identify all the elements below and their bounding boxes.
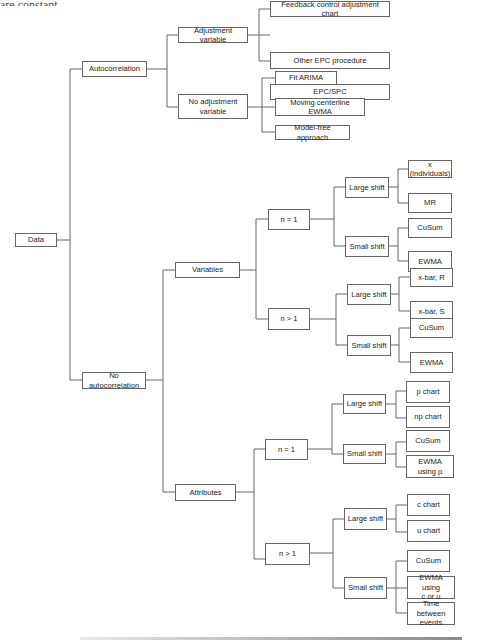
node-no-autocorrelation: No autocorrelation (82, 372, 146, 389)
node-fit-arima: Fit ARIMA (275, 71, 337, 85)
node-attributes-ngt1-cusum: CuSum (407, 550, 450, 572)
node-time-between-events: Time between events (407, 602, 455, 625)
node-autocorrelation: Autocorrelation (82, 61, 147, 77)
node-model-free-approach: Model-free approach (275, 125, 350, 140)
node-xbar-r: x-bar, R (410, 268, 453, 287)
node-x-individuals: x (individuals) (408, 160, 452, 178)
node-other-epc-procedure: Other EPC procedure (270, 52, 390, 69)
node-attributes: Attributes (175, 484, 236, 501)
node-no-adjustment-variable: No adjustment variable (178, 94, 248, 119)
node-variables-ngt1-cusum: CuSum (410, 318, 453, 338)
node-moving-centerline-ewma: Moving centerline EWMA (275, 98, 365, 116)
node-mr: MR (408, 193, 452, 213)
node-adjustment-variable: Adjustment variable (178, 27, 248, 43)
node-np-chart: np chart (406, 406, 450, 428)
node-variables: Variables (175, 262, 240, 278)
node-feedback-control-chart: Feedback control adjustment chart (270, 1, 390, 17)
node-attributes-n1-small-shift: Small shift (343, 444, 386, 464)
node-variables-n-gt-1: n > 1 (268, 308, 310, 330)
node-attributes-n-gt-1: n > 1 (265, 543, 310, 565)
node-attributes-n-eq-1: n = 1 (265, 439, 308, 460)
node-variables-ngt1-large-shift: Large shift (347, 284, 391, 305)
node-variables-n1-cusum: CuSum (408, 218, 452, 238)
node-variables-n1-large-shift: Large shift (345, 177, 389, 198)
node-attributes-ngt1-large-shift: Large shift (344, 508, 387, 530)
bottom-rule (80, 637, 462, 640)
node-c-chart: c chart (407, 494, 450, 516)
node-p-chart: p chart (406, 381, 450, 403)
node-ewma-using-p: EWMA using p (406, 455, 454, 478)
node-attributes-n1-cusum: CuSum (406, 430, 450, 452)
node-variables-ngt1-ewma: EWMA (410, 352, 453, 373)
node-data: Data (15, 233, 57, 247)
node-attributes-ngt1-small-shift: Small shift (344, 577, 387, 599)
node-variables-n1-small-shift: Small shift (345, 236, 389, 257)
node-variables-n-eq-1: n = 1 (268, 209, 310, 230)
node-variables-ngt1-small-shift: Small shift (347, 335, 391, 356)
node-u-chart: u chart (407, 520, 450, 542)
node-attributes-n1-large-shift: Large shift (343, 394, 386, 414)
node-ewma-using-c-or-u: EWMA using c or u (407, 576, 455, 599)
